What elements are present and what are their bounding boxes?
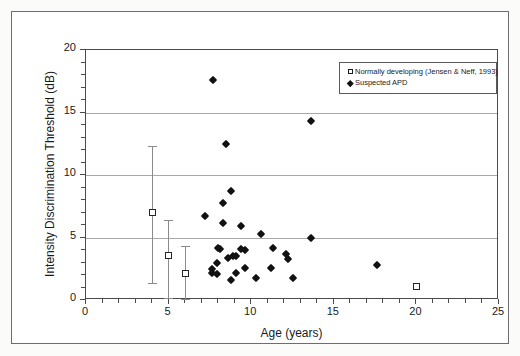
- legend-item-suspected-apd: Suspected APD: [345, 78, 492, 89]
- x-tick-mark-minor: [217, 299, 218, 303]
- data-point-suspected-apd: [306, 233, 314, 241]
- x-tick-mark: [333, 299, 334, 304]
- data-point-suspected-apd: [219, 218, 227, 226]
- y-tick-label: 5: [48, 229, 76, 241]
- x-tick-mark-minor: [349, 299, 350, 303]
- data-point-suspected-apd: [267, 263, 275, 271]
- chart-legend: Normally developing (Jensen & Neff, 1993…: [339, 62, 497, 94]
- x-tick-mark-minor: [135, 299, 136, 303]
- data-point-suspected-apd: [268, 243, 276, 251]
- legend-label: Normally developing (Jensen & Neff, 1993…: [355, 67, 498, 78]
- error-bar-cap: [148, 146, 157, 147]
- x-tick-mark-minor: [399, 299, 400, 303]
- x-tick-mark: [85, 299, 86, 304]
- error-bar-cap: [181, 299, 190, 300]
- legend-item-normally-developing: Normally developing (Jensen & Neff, 1993…: [345, 67, 492, 78]
- open-square-icon: [345, 67, 355, 78]
- error-bar-cap: [164, 220, 173, 221]
- data-point-suspected-apd: [373, 261, 381, 269]
- x-tick-mark-minor: [234, 299, 235, 303]
- x-tick-mark-minor: [316, 299, 317, 303]
- x-tick-label: 0: [70, 305, 100, 317]
- data-point-normally-developing: [182, 270, 189, 277]
- x-tick-mark-minor: [300, 299, 301, 303]
- data-point-suspected-apd: [209, 76, 217, 84]
- x-tick-mark-minor: [201, 299, 202, 303]
- x-tick-mark-minor: [118, 299, 119, 303]
- gridline: [86, 175, 497, 176]
- x-tick-mark-minor: [465, 299, 466, 303]
- x-tick-mark-minor: [481, 299, 482, 303]
- data-point-normally-developing: [165, 252, 172, 259]
- legend-label: Suspected APD: [355, 78, 408, 89]
- x-tick-mark: [498, 299, 499, 304]
- data-point-suspected-apd: [232, 268, 240, 276]
- data-point-normally-developing: [413, 283, 420, 290]
- data-point-suspected-apd: [201, 212, 209, 220]
- x-tick-mark-minor: [448, 299, 449, 303]
- x-tick-mark-minor: [267, 299, 268, 303]
- error-bar-cap: [181, 246, 190, 247]
- x-tick-label: 10: [235, 305, 265, 317]
- data-point-suspected-apd: [240, 263, 248, 271]
- x-tick-mark-minor: [366, 299, 367, 303]
- data-point-suspected-apd: [222, 140, 230, 148]
- data-point-normally-developing: [149, 209, 156, 216]
- gridline: [86, 113, 497, 114]
- x-tick-label: 15: [318, 305, 348, 317]
- y-tick-label: 0: [48, 291, 76, 303]
- data-point-suspected-apd: [227, 276, 235, 284]
- error-bar-cap: [164, 298, 173, 299]
- x-tick-mark-minor: [102, 299, 103, 303]
- y-tick-label: 20: [48, 41, 76, 53]
- figure-frame: Intensity Discrimination Threshold (dB) …: [11, 11, 509, 344]
- y-tick-label: 10: [48, 166, 76, 178]
- x-tick-label: 5: [153, 305, 183, 317]
- x-tick-label: 25: [483, 305, 513, 317]
- x-tick-mark: [250, 299, 251, 304]
- filled-diamond-icon: [345, 78, 355, 89]
- y-tick-label: 15: [48, 104, 76, 116]
- error-bar: [168, 220, 169, 298]
- x-tick-mark-minor: [382, 299, 383, 303]
- data-point-suspected-apd: [288, 273, 296, 281]
- x-tick-mark: [415, 299, 416, 304]
- x-tick-mark-minor: [151, 299, 152, 303]
- x-axis-title: Age (years): [85, 326, 498, 340]
- x-tick-mark-minor: [283, 299, 284, 303]
- x-tick-mark-minor: [432, 299, 433, 303]
- gridline: [86, 238, 497, 239]
- data-point-suspected-apd: [252, 273, 260, 281]
- data-point-suspected-apd: [237, 222, 245, 230]
- figure-scatter-plot: Intensity Discrimination Threshold (dB) …: [0, 0, 520, 356]
- data-point-suspected-apd: [219, 198, 227, 206]
- x-tick-mark: [168, 299, 169, 304]
- x-tick-label: 20: [400, 305, 430, 317]
- data-point-suspected-apd: [227, 187, 235, 195]
- error-bar-cap: [148, 283, 157, 284]
- data-point-suspected-apd: [306, 117, 314, 125]
